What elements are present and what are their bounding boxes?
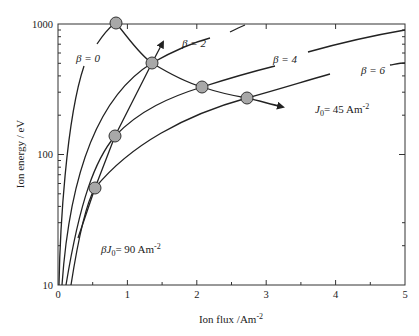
point-1 <box>110 17 122 29</box>
svg-text:1: 1 <box>125 289 130 300</box>
curve-beta-2-tail <box>230 25 245 32</box>
point-2 <box>146 57 158 69</box>
svg-text:4: 4 <box>333 289 339 300</box>
curve-beta-4-tail <box>308 30 405 52</box>
svg-text:10: 10 <box>43 280 54 291</box>
label-j0: J0= 45 Am-2 <box>315 102 369 118</box>
svg-text:0: 0 <box>55 289 60 300</box>
x-tick-labels: 0 1 2 3 4 5 <box>55 289 407 300</box>
svg-text:3: 3 <box>264 289 269 300</box>
svg-text:5: 5 <box>402 289 407 300</box>
y-axis-label: Ion energy / eV <box>14 120 26 189</box>
svg-text:100: 100 <box>37 149 53 160</box>
label-beta-4: β = 4 <box>272 53 297 65</box>
svg-text:1000: 1000 <box>32 19 53 30</box>
point-4 <box>241 92 253 104</box>
label-beta-j0: βJ0= 90 Am-2 <box>100 242 161 258</box>
label-beta-0: β = 0 <box>75 52 100 64</box>
curve-beta-6-tail <box>390 63 405 65</box>
point-6 <box>89 182 101 194</box>
svg-text:2: 2 <box>194 289 199 300</box>
y-tick-labels: 10 100 1000 <box>32 19 53 291</box>
point-5 <box>109 130 121 142</box>
x-axis-label: Ion flux /Am-2 <box>199 312 263 325</box>
chart: 0 1 2 3 4 5 10 100 1000 Ion flux /Am-2 I… <box>0 0 419 336</box>
point-3 <box>196 81 208 93</box>
label-beta-6: β = 6 <box>360 64 385 76</box>
label-beta-2: β = 2 <box>181 37 206 49</box>
